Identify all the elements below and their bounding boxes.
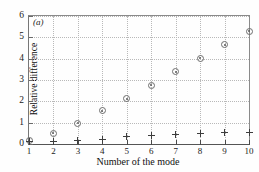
data-point-plus-9 xyxy=(221,129,228,136)
gridline-y-1 xyxy=(29,123,249,124)
y-tick-label-1: 1 xyxy=(19,118,24,128)
data-point-diamond-3 xyxy=(74,120,81,127)
gridline-x-5 xyxy=(127,16,128,144)
gridline-y-5 xyxy=(29,37,249,38)
data-point-plus-8 xyxy=(197,130,204,137)
y-tick-label-4: 4 xyxy=(19,54,24,64)
y-tick-label-5: 5 xyxy=(19,33,24,43)
x-axis-label: Number of the mode xyxy=(28,156,248,167)
data-point-plus-6 xyxy=(148,132,155,139)
gridline-x-6 xyxy=(151,16,152,144)
data-point-plus-10 xyxy=(246,129,253,136)
data-point-plus-1 xyxy=(26,138,33,145)
x-tick-mark-10 xyxy=(249,140,250,145)
data-point-diamond-10 xyxy=(246,28,253,35)
x-tick-mark-6 xyxy=(151,140,152,145)
gridline-y-4 xyxy=(29,59,249,60)
y-tick-mark-2 xyxy=(29,101,33,102)
y-tick-label-6: 6 xyxy=(19,11,24,21)
x-tick-label-5: 5 xyxy=(125,147,130,156)
x-tick-mark-7 xyxy=(176,140,177,145)
x-tick-mark-9 xyxy=(225,140,226,145)
data-point-plus-4 xyxy=(99,136,106,143)
gridline-y-3 xyxy=(29,80,249,81)
y-tick-label-0: 0 xyxy=(19,139,24,149)
gridline-x-4 xyxy=(102,16,103,144)
y-tick-mark-4 xyxy=(29,59,33,60)
y-tick-mark-3 xyxy=(29,80,33,81)
x-tick-label-4: 4 xyxy=(100,147,105,156)
x-tick-mark-5 xyxy=(127,140,128,145)
x-tick-label-1: 1 xyxy=(27,147,32,156)
y-tick-label-2: 2 xyxy=(19,97,24,107)
data-point-diamond-4 xyxy=(99,107,106,114)
panel-label: (a) xyxy=(33,17,44,27)
data-point-plus-2 xyxy=(50,138,57,145)
gridline-x-8 xyxy=(200,16,201,144)
y-tick-label-3: 3 xyxy=(19,75,24,85)
data-point-diamond-7 xyxy=(172,68,179,75)
data-point-diamond-5 xyxy=(123,95,130,102)
data-point-diamond-2 xyxy=(50,130,57,137)
plot-area: 0123456 12345678910 xyxy=(28,15,250,145)
x-tick-label-9: 9 xyxy=(222,147,227,156)
x-tick-label-10: 10 xyxy=(245,147,254,156)
x-tick-label-2: 2 xyxy=(51,147,56,156)
data-point-diamond-8 xyxy=(197,55,204,62)
figure-panel-a: Relative difference 0123456 12345678910 … xyxy=(0,0,259,172)
y-tick-mark-1 xyxy=(29,123,33,124)
data-point-diamond-6 xyxy=(148,82,155,89)
x-tick-label-7: 7 xyxy=(173,147,178,156)
gridline-x-2 xyxy=(53,16,54,144)
data-point-diamond-9 xyxy=(221,41,228,48)
data-point-plus-7 xyxy=(172,131,179,138)
gridline-y-6 xyxy=(29,16,249,17)
gridline-x-7 xyxy=(176,16,177,144)
y-tick-mark-5 xyxy=(29,37,33,38)
x-tick-mark-8 xyxy=(200,140,201,145)
data-point-plus-3 xyxy=(74,137,81,144)
gridline-x-9 xyxy=(225,16,226,144)
y-axis-label-container: Relative difference xyxy=(0,15,14,143)
data-point-plus-5 xyxy=(123,133,130,140)
x-tick-label-8: 8 xyxy=(198,147,203,156)
x-tick-label-6: 6 xyxy=(149,147,154,156)
gridline-y-2 xyxy=(29,101,249,102)
x-tick-label-3: 3 xyxy=(76,147,81,156)
